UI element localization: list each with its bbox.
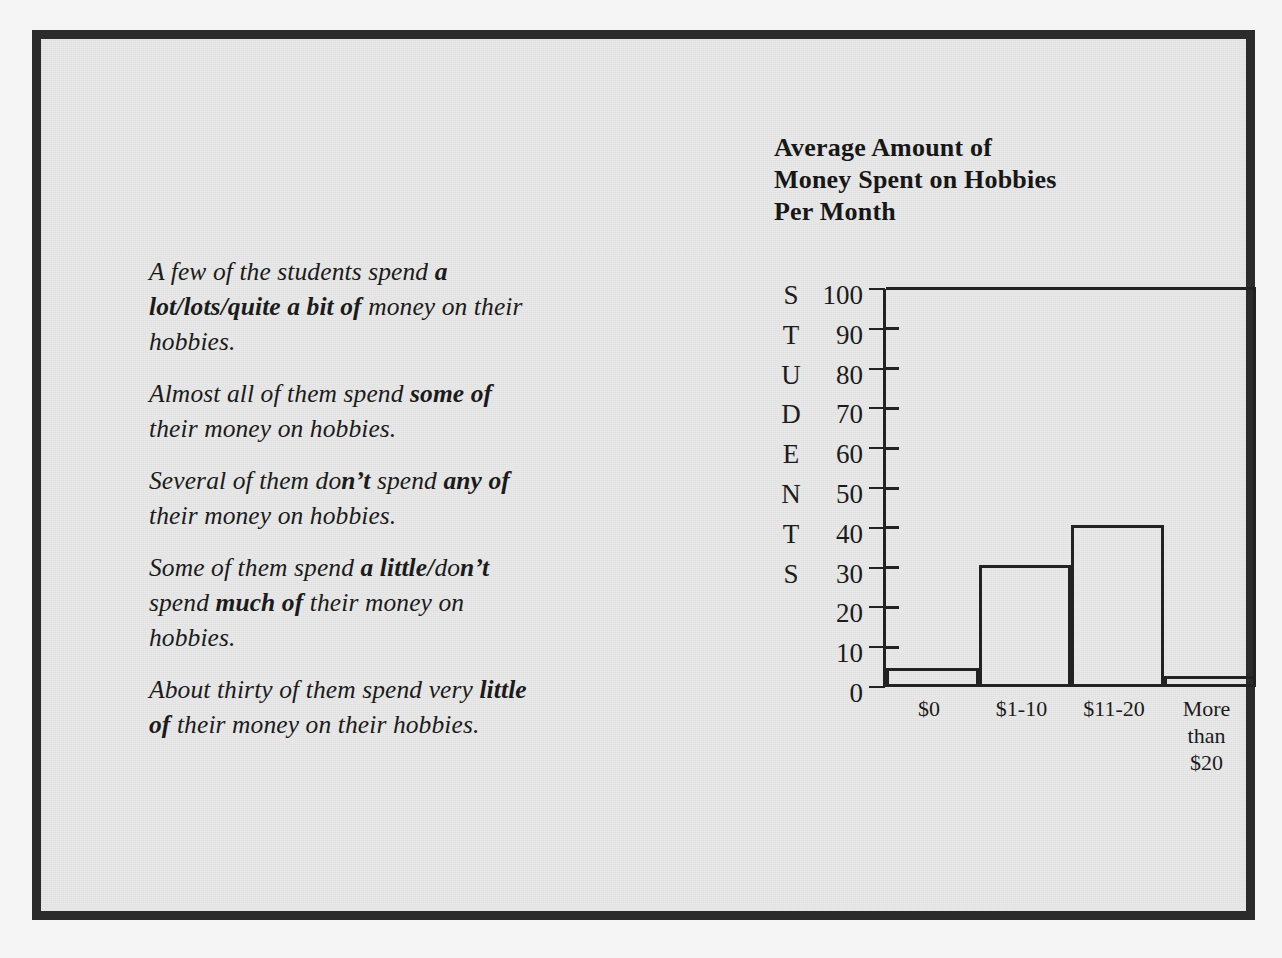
prose-column: A few of the students spend a lot/lots/q… — [149, 254, 539, 759]
y-axis-tick-labels: 1009080706050403020100 — [801, 276, 863, 714]
bar-chart: Average Amount ofMoney Spent on HobbiesP… — [731, 99, 1271, 819]
y-tick-30: 30 — [801, 555, 863, 595]
plain-phrase: spend — [370, 466, 443, 495]
y-tick-60: 60 — [801, 435, 863, 475]
y-tick-mark-10 — [884, 646, 899, 649]
y-tick-20: 20 — [801, 594, 863, 634]
plain-phrase: their money on their hobbies. — [170, 710, 479, 739]
bar--1-10 — [979, 565, 1072, 684]
y-tick-stub-40 — [869, 527, 885, 529]
y-tick-stub-20 — [869, 606, 885, 608]
y-tick-mark-30 — [884, 566, 899, 569]
plain-phrase: Several of them do — [149, 466, 341, 495]
y-tick-mark-60 — [884, 447, 899, 450]
y-tick-10: 10 — [801, 634, 863, 674]
x-label--0: $0 — [883, 695, 975, 722]
y-tick-90: 90 — [801, 316, 863, 356]
y-tick-70: 70 — [801, 395, 863, 435]
y-tick-40: 40 — [801, 515, 863, 555]
plain-phrase: spend — [149, 588, 215, 617]
bold-phrase: some of — [410, 379, 492, 408]
y-tick-stub-90 — [869, 328, 885, 330]
bar--0 — [886, 668, 979, 684]
x-label-more-than-20: Morethan$20 — [1161, 695, 1253, 776]
plain-phrase: their money on hobbies. — [149, 501, 396, 530]
sentence-paragraph-4: Some of them spend a little/don’t spend … — [149, 550, 539, 655]
x-label-line: More — [1161, 695, 1253, 722]
y-tick-stub-70 — [869, 407, 885, 409]
y-tick-mark-70 — [884, 407, 899, 410]
page-border-frame: A few of the students spend a lot/lots/q… — [32, 30, 1255, 920]
plot-area — [883, 289, 1253, 687]
plain-phrase: About thirty of them spend very — [149, 675, 479, 704]
sentence-paragraph-2: Almost all of them spend some of their m… — [149, 376, 539, 446]
chart-title-line-2: Money Spent on Hobbies — [774, 164, 1104, 196]
paper-background: A few of the students spend a lot/lots/q… — [41, 39, 1246, 911]
y-tick-0: 0 — [801, 674, 863, 714]
plain-phrase: do — [434, 553, 460, 582]
x-label-line: $20 — [1161, 749, 1253, 776]
bold-phrase: a little/ — [361, 553, 435, 582]
plain-phrase: A few of the students spend — [149, 257, 435, 286]
y-tick-mark-50 — [884, 487, 899, 490]
y-tick-mark-100 — [869, 288, 885, 290]
chart-title: Average Amount ofMoney Spent on HobbiesP… — [774, 132, 1104, 228]
chart-title-line-1: Average Amount of — [774, 132, 1104, 164]
x-axis-tick-labels: $0$1-10$11-20Morethan$20 — [883, 695, 1255, 805]
y-tick-mark-90 — [884, 327, 899, 330]
y-tick-mark-0 — [869, 686, 885, 688]
y-tick-stub-50 — [869, 487, 885, 489]
x-label--11-20: $11-20 — [1068, 695, 1160, 722]
x-label-line: $0 — [883, 695, 975, 722]
plot-top-border — [886, 287, 1256, 290]
plain-phrase: their money on hobbies. — [149, 414, 396, 443]
y-tick-mark-40 — [884, 526, 899, 529]
y-tick-100: 100 — [801, 276, 863, 316]
y-tick-stub-10 — [869, 646, 885, 648]
y-tick-mark-20 — [884, 606, 899, 609]
bar--11-20 — [1071, 525, 1164, 684]
x-label--1-10: $1-10 — [976, 695, 1068, 722]
bar-more-than-20 — [1164, 676, 1257, 684]
sentence-paragraph-1: A few of the students spend a lot/lots/q… — [149, 254, 539, 359]
bold-phrase: n’t — [341, 466, 370, 495]
textbook-page: A few of the students spend a lot/lots/q… — [0, 0, 1282, 958]
y-tick-stub-30 — [869, 567, 885, 569]
plain-phrase: Some of them spend — [149, 553, 361, 582]
bold-phrase: n’t — [460, 553, 489, 582]
y-tick-80: 80 — [801, 356, 863, 396]
bold-phrase: any of — [443, 466, 509, 495]
sentence-paragraph-5: About thirty of them spend very little o… — [149, 672, 539, 742]
y-tick-stub-80 — [869, 368, 885, 370]
x-label-line: $1-10 — [976, 695, 1068, 722]
plain-phrase: Almost all of them spend — [149, 379, 410, 408]
x-label-line: $11-20 — [1068, 695, 1160, 722]
plot-right-border — [1253, 287, 1256, 687]
y-tick-mark-80 — [884, 367, 899, 370]
bold-phrase: much of — [215, 588, 303, 617]
sentence-paragraph-3: Several of them don’t spend any of their… — [149, 463, 539, 533]
y-tick-stub-60 — [869, 447, 885, 449]
chart-title-line-3: Per Month — [774, 196, 1104, 228]
x-label-line: than — [1161, 722, 1253, 749]
y-tick-50: 50 — [801, 475, 863, 515]
